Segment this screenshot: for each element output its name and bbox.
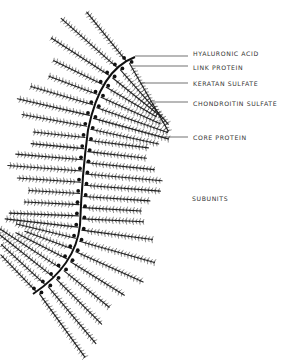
label-core-protein: CORE PROTEIN (193, 135, 247, 141)
label-subunits: SUBUNITS (192, 196, 228, 202)
label-keratan-sulfate: KERATAN SULFATE (193, 81, 258, 87)
leader-lines (131, 56, 188, 137)
label-link-protein: LINK PROTEIN (193, 65, 243, 71)
label-hyaluronic-acid: HYALURONIC ACID (193, 51, 259, 57)
label-chondroitin-sulfate: CHONDROITIN SULFATE (193, 101, 277, 107)
